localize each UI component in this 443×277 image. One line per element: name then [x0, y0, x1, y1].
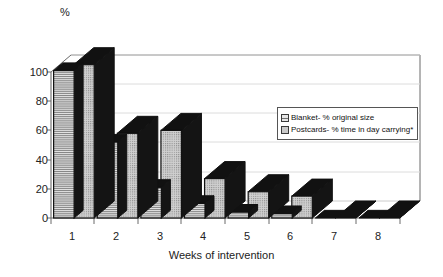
x-tick-label-7: 7: [331, 230, 337, 242]
x-tick-label-3: 3: [157, 230, 163, 242]
chart-figure: %: [0, 0, 443, 277]
x-tick-label-5: 5: [244, 230, 250, 242]
x-tick-label-2: 2: [113, 230, 119, 242]
x-tick-label-4: 4: [200, 230, 206, 242]
x-tick-label-6: 6: [287, 230, 293, 242]
dotted-swatch-icon: [281, 126, 289, 134]
legend-label-postcards: Postcards- % time in day carrying*: [291, 125, 413, 134]
legend-item-blanket: Blanket- % original size: [281, 112, 413, 123]
x-tick-label-1: 1: [69, 230, 75, 242]
legend-label-blanket: Blanket- % original size: [291, 113, 374, 122]
chart-legend: Blanket- % original size Postcards- % ti…: [277, 107, 418, 140]
x-tick-label-8: 8: [375, 230, 381, 242]
x-axis-title: Weeks of intervention: [0, 249, 443, 261]
striped-swatch-icon: [281, 114, 289, 122]
legend-item-postcards: Postcards- % time in day carrying*: [281, 124, 413, 135]
